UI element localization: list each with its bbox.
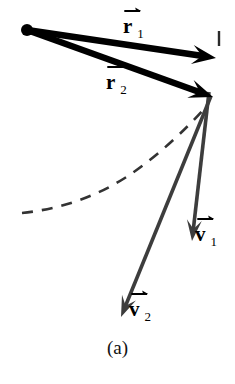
origin-dot (21, 24, 33, 36)
vector-arrow-icon (107, 61, 124, 70)
label-r1: r 1 (123, 16, 143, 37)
label-r2-symbol: r (106, 72, 115, 93)
label-r1-symbol: r (123, 16, 132, 37)
label-v1-subscript: 1 (211, 234, 218, 249)
dashed-trajectory-path (22, 110, 203, 213)
vector-arrow-icon (124, 5, 141, 14)
label-v2: v 2 (129, 299, 150, 320)
vector-r1 (27, 30, 216, 64)
label-r1-subscript: 1 (137, 26, 144, 41)
label-r2-subscript: 2 (120, 82, 127, 97)
label-r2: r 2 (106, 72, 126, 93)
label-v2-subscript: 2 (145, 309, 152, 324)
diagram-canvas (0, 0, 235, 384)
vector-r1-shaft (27, 30, 203, 56)
label-v2-symbol: v (129, 299, 140, 320)
figure-caption: (a) (0, 337, 235, 359)
vector-arrow-icon (197, 213, 214, 222)
vector-arrow-icon (131, 288, 148, 297)
label-v1-symbol: v (195, 224, 206, 245)
physics-vector-diagram: r 1 r 2 v 1 v 2 (a) (0, 0, 235, 384)
label-v1: v 1 (195, 224, 216, 245)
